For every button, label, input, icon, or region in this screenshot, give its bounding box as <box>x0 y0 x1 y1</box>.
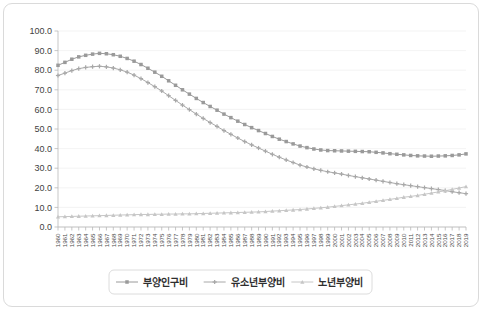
data-point-marker <box>291 142 295 146</box>
data-point-marker <box>222 112 226 116</box>
legend-label: 유소년부양비 <box>231 276 285 288</box>
y-tick-label: 10.0 <box>34 203 52 213</box>
data-point-marker <box>381 179 385 183</box>
data-point-marker <box>160 75 164 79</box>
data-point-marker <box>243 123 247 127</box>
data-point-marker <box>339 172 343 176</box>
data-point-marker <box>215 124 219 128</box>
data-point-marker <box>132 73 136 77</box>
data-point-marker <box>284 140 288 144</box>
data-point-marker <box>367 177 371 181</box>
data-point-marker <box>381 151 385 155</box>
data-point-marker <box>91 52 95 56</box>
data-point-marker <box>264 132 268 136</box>
data-point-marker <box>305 146 309 150</box>
data-point-marker <box>63 71 67 75</box>
chart-legend[interactable]: 부양인구비유소년부양비노년부양비 <box>109 270 372 294</box>
data-point-marker <box>354 150 358 154</box>
y-tick-label: 0.0 <box>39 222 52 232</box>
data-point-marker <box>188 92 192 96</box>
data-point-marker <box>402 183 406 187</box>
x-axis-tick-labels: 1960196119621963196419651966196719681969… <box>54 233 469 247</box>
series-line <box>58 53 466 156</box>
y-tick-label: 40.0 <box>34 144 52 154</box>
data-point-marker <box>195 97 199 101</box>
data-point-marker <box>98 52 102 56</box>
data-point-marker <box>464 152 468 156</box>
data-point-marker <box>84 65 88 69</box>
data-point-marker <box>423 154 427 158</box>
data-point-marker <box>167 79 171 83</box>
data-point-marker <box>374 151 378 155</box>
data-point-marker <box>125 57 129 61</box>
data-point-marker <box>208 120 212 124</box>
data-point-marker <box>105 52 109 56</box>
data-point-marker <box>409 154 413 158</box>
data-point-marker <box>208 105 212 109</box>
data-point-marker <box>146 80 150 84</box>
legend-label: 부양인구비 <box>143 276 188 288</box>
data-point-marker <box>112 53 116 57</box>
data-point-marker <box>70 57 74 61</box>
data-point-marker <box>229 116 233 120</box>
data-point-marker <box>422 186 426 190</box>
data-point-marker <box>444 154 448 158</box>
data-point-marker <box>250 143 254 147</box>
data-point-marker <box>333 149 337 153</box>
data-point-marker <box>395 182 399 186</box>
y-tick-label: 60.0 <box>34 105 52 115</box>
data-point-marker <box>361 150 365 154</box>
data-point-marker <box>326 170 330 174</box>
chart-container: 100.090.080.070.060.050.040.030.020.010.… <box>3 3 479 307</box>
data-point-marker <box>312 167 316 171</box>
data-point-marker <box>340 149 344 153</box>
data-point-marker <box>56 64 60 68</box>
data-point-marker <box>56 73 60 77</box>
data-point-marker <box>395 153 399 157</box>
x-tick-label: 2019 <box>462 233 469 247</box>
data-point-marker <box>256 146 260 150</box>
y-tick-label: 20.0 <box>34 183 52 193</box>
data-point-marker <box>429 186 433 190</box>
data-point-marker <box>367 150 371 154</box>
data-point-marker <box>416 154 420 158</box>
y-tick-label: 50.0 <box>34 124 52 134</box>
data-point-marker <box>450 154 454 158</box>
series-2 <box>56 185 468 219</box>
data-point-marker <box>457 153 461 157</box>
y-tick-label: 80.0 <box>34 65 52 75</box>
data-point-marker <box>347 149 351 153</box>
data-point-marker <box>153 70 157 74</box>
series-line <box>58 66 466 193</box>
data-point-marker <box>278 137 282 141</box>
data-point-marker <box>236 136 240 140</box>
data-point-marker <box>104 65 108 69</box>
data-point-marker <box>118 55 122 59</box>
data-point-marker <box>236 119 240 123</box>
data-point-marker <box>111 66 115 70</box>
data-point-marker <box>284 158 288 162</box>
data-point-marker <box>229 132 233 136</box>
data-point-marker <box>215 108 219 112</box>
plot-area: 100.090.080.070.060.050.040.030.020.010.… <box>4 4 480 308</box>
y-tick-label: 70.0 <box>34 85 52 95</box>
data-point-marker <box>84 54 88 58</box>
data-point-marker <box>388 180 392 184</box>
series-0 <box>56 52 468 158</box>
data-point-marker <box>457 191 461 195</box>
y-tick-label: 100.0 <box>29 26 52 36</box>
data-point-marker <box>243 139 247 143</box>
data-point-marker <box>139 77 143 81</box>
data-point-marker <box>181 88 185 92</box>
series-line <box>58 187 466 217</box>
data-point-marker <box>263 149 267 153</box>
data-point-marker <box>132 59 136 63</box>
data-point-marker <box>63 61 67 65</box>
data-point-marker <box>437 154 441 158</box>
data-point-marker <box>312 147 316 151</box>
y-axis-tick-labels: 100.090.080.070.060.050.040.030.020.010.… <box>29 26 52 232</box>
data-point-marker <box>353 175 357 179</box>
data-point-marker <box>125 70 129 74</box>
data-point-marker <box>77 55 81 59</box>
data-point-marker <box>201 101 205 105</box>
